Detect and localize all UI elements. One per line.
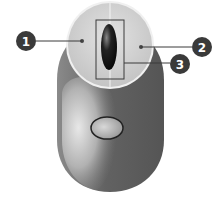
callout-3-number: 3: [176, 58, 184, 72]
callout-1-number: 1: [22, 35, 30, 49]
mouse-diagram: 1 2 3: [0, 0, 222, 201]
thumb-button[interactable]: [91, 117, 123, 139]
callout-2-number: 2: [198, 41, 206, 55]
